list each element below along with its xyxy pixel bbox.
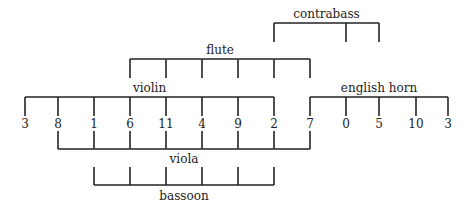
pitch-number: 1 — [90, 117, 98, 131]
pitch-number: 0 — [342, 117, 350, 131]
pitch-number: 11 — [158, 117, 173, 131]
bracket-contrabass — [274, 23, 379, 42]
pitch-number: 6 — [126, 117, 134, 131]
label-contrabass: contrabass — [293, 7, 360, 21]
instrument-row-diagram: 381611492705103 contrabassfluteviolineng… — [0, 0, 468, 210]
label-flute: flute — [206, 43, 234, 57]
pitch-number: 4 — [198, 117, 206, 131]
label-viola: viola — [169, 152, 199, 166]
pitch-number: 10 — [408, 117, 423, 131]
bracket-flute — [130, 59, 310, 78]
pitch-number: 3 — [21, 117, 29, 131]
bracket-english-horn — [310, 97, 448, 116]
pitch-number: 9 — [234, 117, 242, 131]
bracket-violin — [25, 97, 274, 116]
pitch-number: 8 — [54, 117, 62, 131]
bracket-bassoon — [94, 167, 274, 185]
pitch-number: 5 — [375, 117, 383, 131]
pitch-class-row: 381611492705103 — [21, 117, 452, 131]
pitch-number: 3 — [444, 117, 452, 131]
pitch-number: 2 — [270, 117, 278, 131]
bracket-viola — [58, 131, 310, 149]
instrument-brackets — [25, 23, 448, 185]
pitch-number: 7 — [306, 117, 314, 131]
label-bassoon: bassoon — [159, 189, 209, 203]
label-english-horn: english horn — [341, 81, 418, 95]
label-violin: violin — [132, 81, 167, 95]
